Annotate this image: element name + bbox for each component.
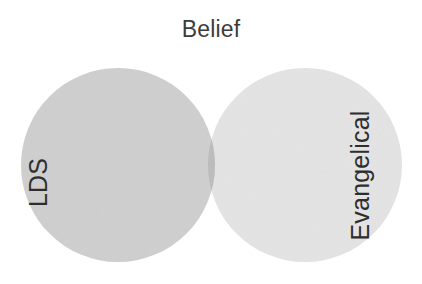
chart-title: Belief (0, 16, 422, 43)
venn-label-lds-text: LDS (25, 158, 52, 207)
venn-label-evangelical-text: Evangelical (347, 110, 374, 240)
venn-diagram-figure: Belief LDS Evangelical (0, 0, 422, 284)
